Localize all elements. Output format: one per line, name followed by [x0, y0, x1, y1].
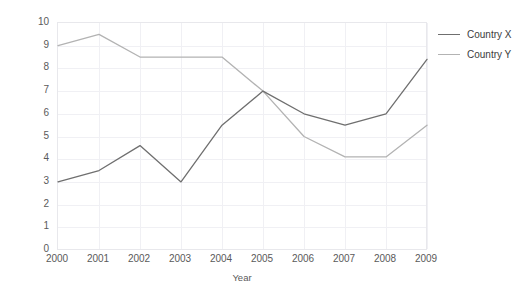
- legend-item-country-y[interactable]: Country Y: [438, 44, 524, 64]
- legend-line-swatch: [438, 54, 460, 55]
- y-axis-tick-label: 5: [9, 130, 49, 142]
- chart-legend: Country XCountry Y: [438, 24, 524, 64]
- legend-item-country-x[interactable]: Country X: [438, 24, 524, 44]
- legend-item-label: Country X: [467, 29, 511, 40]
- x-axis-tick-label: 2009: [402, 252, 450, 265]
- series-line-country-y: [58, 34, 427, 157]
- y-axis-tick-label: 7: [9, 84, 49, 96]
- plot-area: [57, 22, 427, 250]
- legend-line-swatch: [438, 34, 460, 35]
- y-axis-tick-label: 4: [9, 152, 49, 164]
- series-line-country-x: [58, 59, 427, 182]
- y-axis-tick-label: 9: [9, 39, 49, 51]
- legend-item-label: Country Y: [467, 49, 511, 60]
- y-axis-tick-label: 10: [9, 16, 49, 28]
- y-axis-tick-label: 1: [9, 220, 49, 232]
- x-axis-label: Year: [57, 272, 427, 283]
- chart-title: [0, 0, 440, 9]
- line-chart: Percent 109876543210 2000200120022003200…: [0, 0, 525, 299]
- series-lines: [58, 23, 428, 251]
- y-axis-tick-label: 3: [9, 175, 49, 187]
- y-axis-tick-label: 2: [9, 198, 49, 210]
- y-axis-tick-label: 6: [9, 107, 49, 119]
- y-axis-tick-label: 8: [9, 61, 49, 73]
